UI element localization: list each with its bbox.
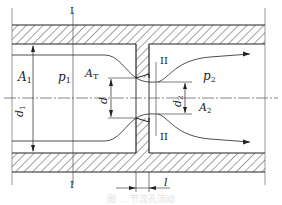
- label-p2: p2: [203, 69, 216, 84]
- label-p1: p1: [58, 70, 71, 85]
- orifice-plate-upper: [136, 44, 149, 78]
- label-d2: d2: [171, 95, 185, 107]
- orifice-flow-diagram: A1 p1 AT d1 d d2 A2 p2 l I I II II: [0, 0, 282, 205]
- bottom-pipe-wall: [12, 153, 265, 172]
- label-section-II-top: II: [160, 55, 168, 66]
- label-AT: AT: [84, 67, 99, 81]
- label-l: l: [164, 176, 168, 189]
- label-d1: d1: [13, 105, 27, 117]
- label-d: d: [97, 97, 110, 104]
- label-section-I-bottom: I: [70, 179, 74, 190]
- label-section-II-bottom: II: [160, 131, 168, 142]
- label-section-I-top: I: [70, 5, 74, 16]
- figure-caption: 图 … 节流孔流动: [0, 192, 282, 205]
- label-A2: A2: [198, 101, 211, 115]
- label-A1: A1: [17, 70, 32, 85]
- orifice-plate-lower: [136, 118, 149, 153]
- top-pipe-wall: [12, 25, 265, 44]
